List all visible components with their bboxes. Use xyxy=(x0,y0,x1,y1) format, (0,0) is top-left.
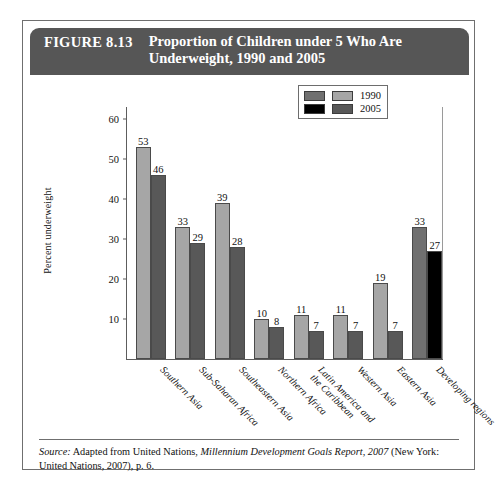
y-tick-60: 60 xyxy=(109,114,128,125)
bar-value-label: 10 xyxy=(256,308,267,319)
plot-frame: 102030405060 5346Southern Asia3329Sub-Sa… xyxy=(126,107,443,360)
bar-2005: 8 xyxy=(269,327,284,359)
bar-value-label: 33 xyxy=(177,216,188,227)
bar-2005: 28 xyxy=(230,247,245,359)
y-tick-20: 20 xyxy=(109,274,128,285)
source-label: Source: xyxy=(39,446,71,457)
source-divider xyxy=(39,439,459,440)
chart-area: Percent underweight 19902005 10203040506… xyxy=(30,77,469,432)
source-text-before: Adapted from United Nations, xyxy=(71,446,201,457)
bar-group: 3329Sub-Saharan Africa xyxy=(175,107,205,359)
bar-value-label: 7 xyxy=(314,320,319,331)
y-tick-50: 50 xyxy=(109,154,128,165)
legend-swatch-1990 xyxy=(332,91,353,101)
bar-value-label: 19 xyxy=(375,272,386,283)
bar-2005: 7 xyxy=(309,331,324,359)
bar-group: 3928Southeastern Asia xyxy=(215,107,245,359)
bar-1990: 39 xyxy=(215,203,230,359)
bar-group: 117Latin America and the Caribbean xyxy=(294,107,324,359)
bar-2005: 29 xyxy=(190,243,205,359)
bar-2005: 7 xyxy=(388,331,403,359)
y-axis-title: Percent underweight xyxy=(42,166,53,296)
bar-value-label: 39 xyxy=(217,192,228,203)
bar-1990: 19 xyxy=(373,283,388,359)
bar-value-label: 29 xyxy=(192,232,203,243)
bar-1990: 33 xyxy=(175,227,190,359)
bar-value-label: 27 xyxy=(429,240,440,251)
source-italic-title: Millennium Development Goals Report, 200… xyxy=(200,446,388,457)
y-tick-10: 10 xyxy=(109,314,128,325)
bar-value-label: 33 xyxy=(414,216,425,227)
bar-1990: 10 xyxy=(254,319,269,359)
figure-header-banner: FIGURE 8.13 Proportion of Children under… xyxy=(30,28,469,75)
x-axis-label: Developing regions xyxy=(434,364,497,427)
bar-1990: 53 xyxy=(136,147,151,359)
bar-1990: 33 xyxy=(412,227,427,359)
bar-group: 197Eastern Asia xyxy=(373,107,403,359)
bar-2005: 27 xyxy=(427,251,442,359)
figure-container: FIGURE 8.13 Proportion of Children under… xyxy=(22,20,475,470)
bar-value-label: 8 xyxy=(274,316,279,327)
y-tick-40: 40 xyxy=(109,194,128,205)
bar-1990: 11 xyxy=(294,315,309,359)
bar-value-label: 11 xyxy=(296,304,306,315)
x-axis-label: Eastern Asia xyxy=(395,364,439,408)
figure-number: FIGURE 8.13 xyxy=(44,33,133,51)
bar-group: 3327Developing regions xyxy=(412,107,442,359)
bar-group: 5346Southern Asia xyxy=(136,107,166,359)
bar-value-label: 11 xyxy=(336,304,346,315)
bar-group: 117Western Asia xyxy=(333,107,363,359)
bar-group: 108Northern Africa xyxy=(254,107,284,359)
bar-value-label: 28 xyxy=(232,236,243,247)
bar-value-label: 53 xyxy=(138,136,149,147)
legend-label-1990: 1990 xyxy=(360,90,381,101)
bar-value-label: 7 xyxy=(353,320,358,331)
bar-2005: 46 xyxy=(151,175,166,359)
legend-swatch-alt-1990 xyxy=(304,91,325,101)
bars-layer: 5346Southern Asia3329Sub-Saharan Africa3… xyxy=(127,107,443,359)
figure-title: Proportion of Children under 5 Who Are U… xyxy=(149,33,459,67)
bar-1990: 11 xyxy=(333,315,348,359)
bar-value-label: 7 xyxy=(393,320,398,331)
source-note: Source: Adapted from United Nations, Mil… xyxy=(39,445,463,472)
y-tick-30: 30 xyxy=(109,234,128,245)
bar-2005: 7 xyxy=(348,331,363,359)
bar-value-label: 46 xyxy=(153,164,164,175)
